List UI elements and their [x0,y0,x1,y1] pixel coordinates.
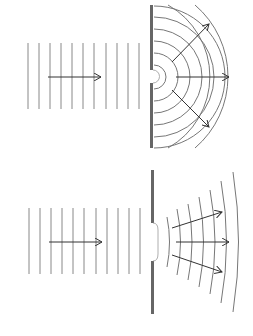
gap-edge [153,70,160,83]
barrier [151,170,154,314]
gap-edge [153,223,158,261]
diffraction-diagram [0,0,253,336]
wide-gap-panel [29,170,239,314]
barrier [150,5,153,148]
incident-plane-waves [28,43,139,109]
diffracted-arrows [172,212,229,272]
incident-plane-waves [29,208,140,274]
narrow-gap-panel [28,5,229,148]
